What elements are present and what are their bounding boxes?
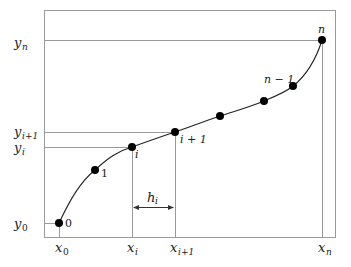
y-label-yn: y n (13, 35, 28, 52)
point-n (318, 36, 326, 44)
svg-text:n: n (326, 247, 332, 257)
svg-text:y: y (13, 35, 22, 50)
x-label-xi: x i (127, 240, 138, 257)
point-label-n-minus-1: n − 1 (264, 73, 294, 86)
arrowhead-left-icon (133, 205, 139, 210)
svg-text:x: x (170, 240, 178, 255)
svg-text:x: x (318, 240, 326, 255)
svg-text:i: i (135, 247, 138, 257)
y-label-yi1: y i+1 (13, 124, 38, 141)
point-intermediate-1 (216, 112, 224, 120)
point-label-i: i (135, 148, 139, 161)
plot-frame (45, 11, 336, 238)
svg-text:x: x (55, 240, 63, 255)
x-label-xn: x n (318, 240, 332, 257)
svg-text:y: y (13, 124, 22, 139)
svg-text:y: y (13, 216, 22, 231)
point-label-n: n (318, 23, 325, 36)
point-i-plus-1 (171, 128, 179, 136)
x-label-x0: x 0 (55, 240, 69, 257)
interval-arrow-hi (133, 205, 174, 210)
svg-text:i+1: i+1 (22, 131, 38, 141)
point-label-1: 1 (101, 167, 108, 180)
point-label-i-plus-1: i + 1 (180, 133, 207, 146)
svg-text:0: 0 (63, 247, 69, 257)
interval-label-hi: h i (147, 190, 158, 206)
svg-text:y: y (13, 140, 22, 155)
svg-text:i+1: i+1 (178, 247, 194, 257)
interpolation-diagram: 0 1 i i + 1 n − 1 n y n y i+1 y i y 0 x … (0, 0, 351, 267)
svg-text:i: i (155, 196, 158, 206)
point-0 (55, 219, 63, 227)
spline-curve (59, 40, 322, 223)
svg-text:n: n (22, 42, 28, 52)
svg-text:i: i (22, 147, 25, 157)
svg-text:x: x (127, 240, 135, 255)
svg-text:0: 0 (22, 223, 28, 233)
y-label-yi: y i (13, 140, 25, 157)
arrowhead-right-icon (168, 205, 174, 210)
point-intermediate-2 (260, 97, 268, 105)
y-label-y0: y 0 (13, 216, 28, 233)
point-label-0: 0 (65, 217, 72, 230)
x-label-xi1: x i+1 (170, 240, 194, 257)
point-1 (91, 166, 99, 174)
